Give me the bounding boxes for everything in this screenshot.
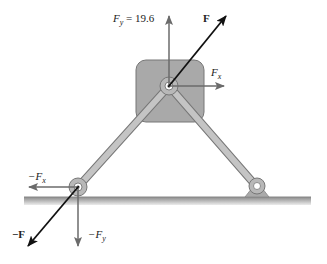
f-label: F [203,12,210,24]
left-member [78,86,169,187]
neg-f-arrow-icon [28,187,78,246]
neg-f-label: −F [12,228,25,240]
neg-fy-label: −Fy [88,228,106,243]
truss-free-body-diagram: Fy = 19.6 F Fx −Fx −F −Fy [0,0,327,264]
neg-fx-label: −Fx [28,170,46,185]
right-member [169,86,257,187]
fx-label: Fx [210,66,222,81]
fy-label: Fy = 19.6 [112,12,155,27]
